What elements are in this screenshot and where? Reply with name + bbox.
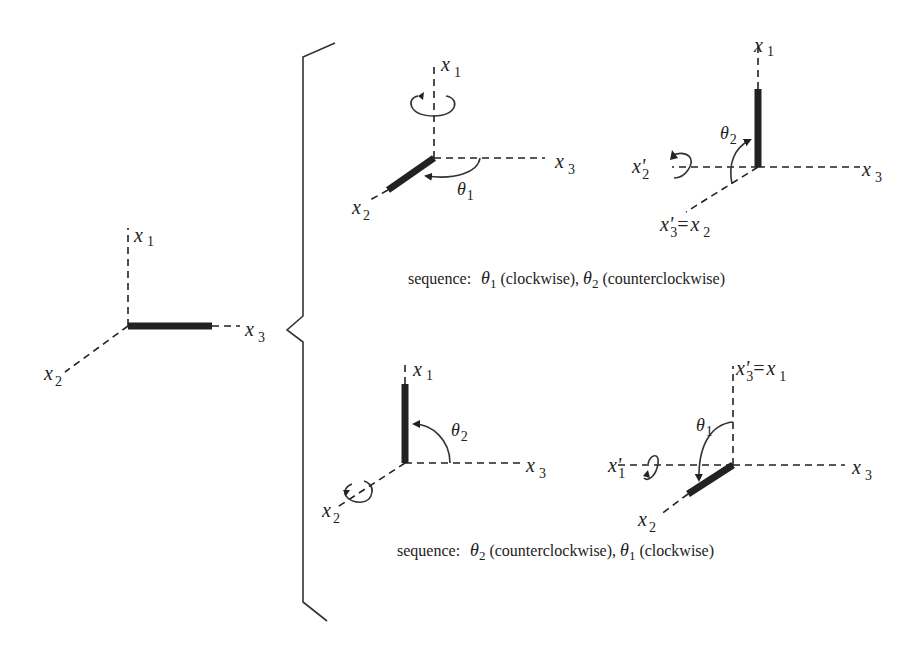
x3-label: x3	[244, 318, 265, 345]
x3-prime-equals-x2-label: x'3=x2	[659, 213, 710, 240]
rotation-diagram: x1 x3 x2 θ1 x1 x3 x2 θ2 x1 x3 x'2	[0, 0, 922, 664]
x2-axis	[660, 494, 688, 515]
x3-label: x3	[851, 456, 872, 483]
x3-label: x3	[861, 158, 882, 185]
top-sequence-caption: sequence:θ1(clockwise),θ2(counterclockwi…	[408, 268, 725, 291]
rotation-arrow-icon	[418, 92, 424, 100]
x3-prime-equals-x1-label: x'3=x1	[735, 357, 786, 384]
brace	[287, 43, 335, 621]
theta1-label: θ1	[457, 179, 474, 203]
x2-label: x2	[43, 362, 62, 389]
x3-label: x3	[554, 150, 575, 177]
x2-label: x2	[351, 196, 370, 223]
initial-frame: x1 x3 x2	[43, 224, 265, 389]
theta2-arc-icon	[414, 424, 450, 463]
bottom-step1-frame: θ2 x1 x3 x2	[321, 358, 546, 526]
rotation-indicator-icon	[411, 96, 455, 116]
bar	[688, 465, 733, 494]
top-step2-frame: θ2 x1 x3 x'2 x'3=x2	[631, 34, 882, 240]
x2-prime-label: x'2	[631, 155, 649, 182]
x2-axis	[65, 326, 128, 372]
rotation-indicator-icon	[345, 481, 372, 502]
x3-label: x3	[525, 454, 546, 481]
theta2-label: θ2	[720, 123, 737, 147]
x2-label: x2	[637, 508, 656, 535]
rotation-arrow-icon	[670, 150, 678, 160]
x1-label: x1	[412, 358, 433, 383]
bar	[388, 158, 434, 190]
bottom-sequence-caption: sequence:θ2(counterclockwise),θ1(clockwi…	[397, 540, 714, 563]
theta2-label: θ2	[451, 420, 468, 444]
x1-label: x1	[440, 53, 461, 80]
x3-prime-axis	[686, 167, 758, 212]
x1-label: x1	[133, 224, 154, 249]
x2-label: x2	[321, 499, 340, 526]
rotation-arrow-icon	[643, 470, 650, 478]
x2-axis	[370, 190, 388, 200]
top-step1-frame: θ1 x1 x3 x2	[351, 53, 575, 223]
bottom-step2-frame: θ1 x'3=x1 x3 x'1 x2	[607, 357, 872, 535]
theta1-label: θ1	[696, 415, 713, 439]
x1-prime-label: x'1	[607, 454, 625, 481]
x1-label: x1	[753, 34, 774, 59]
